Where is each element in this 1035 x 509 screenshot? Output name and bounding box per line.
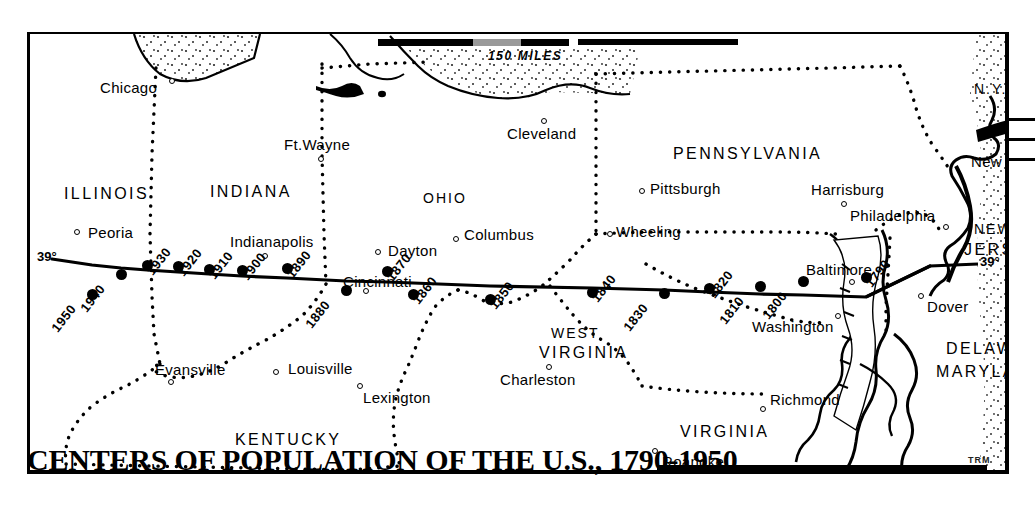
latitude-label-left: 39° xyxy=(37,249,57,264)
state-label: ILLINOIS xyxy=(64,186,149,202)
city-label: Cincinnati xyxy=(343,274,412,289)
lake-michigan-water xyxy=(135,34,260,81)
frame-right-edge xyxy=(1005,32,1009,474)
city-label: Richmond xyxy=(770,392,840,407)
city-label: Charleston xyxy=(500,372,576,387)
city-label: Washington xyxy=(752,319,834,334)
city-label: Ft.Wayne xyxy=(284,137,350,152)
figure-title: CENTERS OF POPULATION OF THE U.S., 1790-… xyxy=(27,443,737,477)
city-label: Dayton xyxy=(388,243,437,258)
city-marker-icon xyxy=(541,118,547,124)
population-center-dot[interactable] xyxy=(659,288,670,299)
lake-island xyxy=(378,91,386,97)
state-label: JERSEY xyxy=(964,242,1009,258)
city-marker-icon xyxy=(318,156,324,162)
city-marker-icon xyxy=(169,78,175,84)
city-label: Wheeling xyxy=(616,224,681,239)
city-marker-icon xyxy=(363,288,369,294)
city-marker-icon xyxy=(760,406,766,412)
city-marker-icon xyxy=(607,231,613,237)
state-label: INDIANA xyxy=(210,184,292,200)
population-center-dot[interactable] xyxy=(798,276,809,287)
edge-tick-1 xyxy=(1009,118,1035,121)
title-underline-rule xyxy=(657,465,987,472)
state-label: NEW xyxy=(974,222,1009,236)
city-marker-icon xyxy=(835,313,841,319)
city-label: Cleveland xyxy=(507,126,576,141)
city-marker-icon xyxy=(168,379,174,385)
city-label: Chicago xyxy=(100,80,157,95)
map-linework xyxy=(30,34,1009,472)
city-marker-icon xyxy=(453,236,459,242)
city-marker-icon xyxy=(74,229,80,235)
city-label: Harrisburg xyxy=(811,182,884,197)
population-center-dot[interactable] xyxy=(341,285,352,296)
city-label: Philadelphia xyxy=(850,208,935,223)
city-label: Evansville xyxy=(155,362,226,377)
city-marker-icon xyxy=(273,369,279,375)
population-center-dot[interactable] xyxy=(116,269,127,280)
state-label: VIRGINIA xyxy=(539,345,628,361)
city-marker-icon xyxy=(849,279,855,285)
state-label: DELAWARE xyxy=(946,341,1009,357)
city-label: Louisville xyxy=(288,361,353,376)
city-label: Pittsburgh xyxy=(650,181,721,196)
state-label: MARYLAND xyxy=(936,364,1009,380)
virginia-coast xyxy=(894,334,917,472)
state-label: N.Y. xyxy=(974,82,1007,96)
map-figure: 150 MILES 39° 39° ILLINOISINDIANAOHIOPEN… xyxy=(0,0,1035,509)
city-marker-icon xyxy=(841,201,847,207)
state-label: PENNSYLVANIA xyxy=(673,146,822,162)
city-label: Peoria xyxy=(88,225,133,240)
city-label: Columbus xyxy=(464,227,534,242)
edge-tick-2 xyxy=(1009,138,1035,141)
city-marker-icon xyxy=(943,224,949,230)
city-marker-icon xyxy=(546,364,552,370)
city-marker-icon xyxy=(639,188,645,194)
state-label: WEST xyxy=(551,326,599,340)
city-marker-icon xyxy=(918,293,924,299)
city-label: Dover xyxy=(927,299,969,314)
map-canvas: 150 MILES 39° 39° ILLINOISINDIANAOHIOPEN… xyxy=(27,32,1009,472)
population-center-dot[interactable] xyxy=(755,281,766,292)
city-label: New York xyxy=(971,154,1009,169)
city-label: Lexington xyxy=(363,390,431,405)
state-label: VIRGINIA xyxy=(680,424,769,440)
lake-peninsula xyxy=(316,83,364,98)
state-label: OHIO xyxy=(423,191,467,205)
edge-tick-3 xyxy=(1009,158,1035,161)
city-marker-icon xyxy=(357,383,363,389)
population-center-dot[interactable] xyxy=(87,289,98,300)
city-marker-icon xyxy=(375,249,381,255)
artist-signature: TRM xyxy=(968,455,991,465)
scale-label: 150 MILES xyxy=(488,50,562,62)
